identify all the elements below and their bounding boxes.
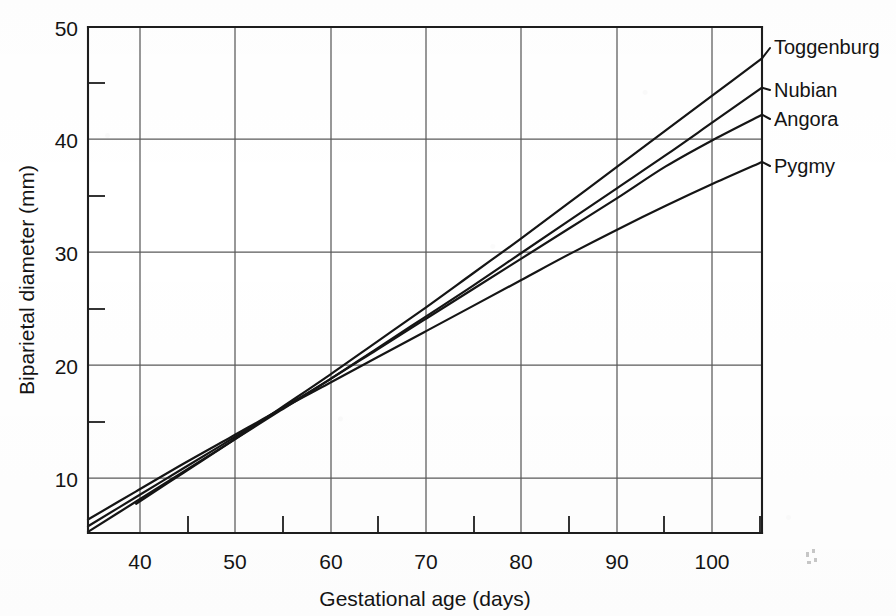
- curve-angora: [88, 115, 762, 527]
- x-tick-label-40: 40: [128, 550, 151, 573]
- series-label-nubian: Nubian: [774, 79, 837, 101]
- x-tick-label-90: 90: [605, 550, 628, 573]
- x-tick-label-80: 80: [509, 550, 532, 573]
- y-tick-label-50: 50: [55, 17, 78, 40]
- grid-lines: [88, 27, 762, 533]
- scan-speck-4: [814, 558, 817, 562]
- series-label-toggenburg: Toggenburg: [774, 36, 880, 58]
- chart-figure: 50 40 30 20 10 40 50 60 70 80 90 100 Ges…: [0, 0, 896, 616]
- x-tick-label-100: 100: [694, 550, 729, 573]
- x-tick-label-70: 70: [414, 550, 437, 573]
- leader-angora: [762, 115, 770, 119]
- data-curves: [88, 58, 762, 531]
- series-labels: Toggenburg Nubian Angora Pygmy: [774, 36, 880, 177]
- series-label-pygmy: Pygmy: [774, 155, 835, 177]
- x-axis-title: Gestational age (days): [319, 587, 530, 610]
- y-axis-tick-labels: 50 40 30 20 10: [55, 17, 78, 491]
- y-tick-label-40: 40: [55, 129, 78, 152]
- x-tick-label-50: 50: [223, 550, 246, 573]
- axes: [88, 27, 762, 533]
- y-tick-label-30: 30: [55, 242, 78, 265]
- biparietal-growth-chart: 50 40 30 20 10 40 50 60 70 80 90 100 Ges…: [0, 0, 896, 616]
- leader-pygmy: [762, 162, 770, 166]
- leader-nubian: [762, 88, 770, 90]
- scan-speck-2: [812, 549, 815, 553]
- scan-artifacts: [806, 549, 817, 564]
- y-tick-label-10: 10: [55, 468, 78, 491]
- series-label-angora: Angora: [774, 108, 839, 130]
- y-axis-title: Biparietal diameter (mm): [15, 165, 38, 395]
- scan-speck-3: [807, 561, 811, 564]
- leader-toggenburg: [762, 48, 770, 58]
- x-tick-label-60: 60: [319, 550, 342, 573]
- scan-speck-1: [806, 552, 809, 557]
- y-tick-label-20: 20: [55, 355, 78, 378]
- series-leader-lines: [762, 48, 770, 166]
- x-axis-tick-labels: 40 50 60 70 80 90 100: [128, 550, 729, 573]
